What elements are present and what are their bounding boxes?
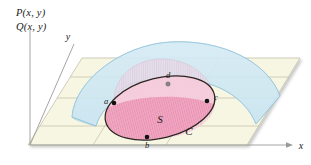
label-region-s: S [157,113,163,125]
label-function-p: P(x, y) [15,7,46,19]
label-axis-y: y [65,31,71,42]
label-point-a: a [104,96,108,106]
point-b-dot [145,135,150,140]
point-a-dot [112,101,117,106]
figure-canvas: P(x, y) Q(x, y) y x a b c d S C [0,0,311,165]
math-figure: P(x, y) Q(x, y) y x a b c d S C [0,0,311,165]
point-c-dot [205,99,210,104]
label-point-b: b [145,140,149,150]
axis-x-arrowhead [286,142,293,148]
label-function-q: Q(x, y) [16,21,47,33]
label-curve-c: C [185,125,193,137]
label-axis-x: x [298,140,304,151]
point-d-dot [166,82,170,86]
label-point-c: c [214,92,218,102]
